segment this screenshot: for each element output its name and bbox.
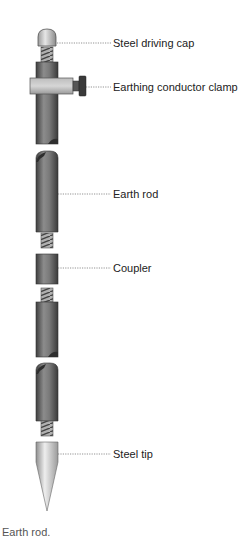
label-steel-tip: Steel tip <box>113 448 153 460</box>
steel-tip <box>36 442 58 511</box>
rod-thread-3 <box>41 421 53 436</box>
coupler <box>36 254 58 284</box>
earthing-conductor-clamp <box>30 76 86 96</box>
lower-rod-segment-1 <box>36 302 58 357</box>
lower-rod-segment-2 <box>36 363 58 421</box>
figure-caption: Earth rod. <box>2 526 50 538</box>
earth-rod-segment <box>36 151 58 232</box>
leader-lines <box>57 43 111 454</box>
label-coupler: Coupler <box>113 262 152 274</box>
cap-thread <box>41 47 53 62</box>
label-earthing-conductor-clamp: Earthing conductor clamp <box>113 81 238 93</box>
rod-thread-1 <box>41 233 53 248</box>
label-earth-rod: Earth rod <box>113 188 158 200</box>
top-rod-segment <box>36 62 58 144</box>
rod-thread-2 <box>41 288 53 302</box>
steel-driving-cap <box>38 29 56 46</box>
label-steel-driving-cap: Steel driving cap <box>113 37 194 49</box>
